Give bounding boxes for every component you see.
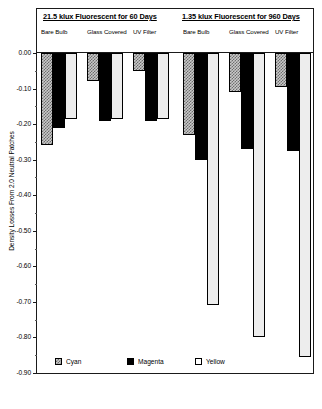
- bar-yellow: [299, 53, 311, 357]
- y-tick-label: -0.90: [1, 369, 31, 376]
- y-tick-label: -0.50: [1, 227, 31, 234]
- y-tick-label: -0.60: [1, 262, 31, 269]
- group-title-1: 1.35 klux Fluorescent for 960 Days: [182, 12, 300, 21]
- y-tick-label: -0.70: [1, 298, 31, 305]
- plot-frame: 21.5 klux Fluorescent for 60 Days 1.35 k…: [36, 8, 314, 374]
- y-tick-label: -0.30: [1, 156, 31, 163]
- y-tick-label: -0.40: [1, 191, 31, 198]
- y-tick-label: -0.80: [1, 333, 31, 340]
- legend-label: Magenta: [138, 358, 164, 365]
- category-label: UV Filter: [275, 28, 298, 35]
- group-title-0: 21.5 klux Fluorescent for 60 Days: [43, 12, 157, 21]
- plot-area: [37, 53, 313, 373]
- chart-legend: CyanMagentaYellow: [55, 357, 255, 371]
- bar-yellow: [111, 53, 123, 119]
- y-tick-label: 0.00: [1, 49, 31, 56]
- bar-magenta: [145, 53, 157, 121]
- bar-yellow: [207, 53, 219, 305]
- y-tick-label: -0.20: [1, 120, 31, 127]
- bar-cyan: [183, 53, 195, 135]
- bar-cyan: [133, 53, 145, 71]
- bar-magenta: [53, 53, 65, 128]
- bar-yellow: [157, 53, 169, 119]
- category-label: Bare Bulb: [41, 28, 67, 35]
- legend-label: Yellow: [206, 358, 225, 365]
- y-tick: [33, 373, 37, 374]
- category-label: Bare Bulb: [183, 28, 209, 35]
- category-label: Glass Covered: [229, 28, 269, 35]
- group-header-band: 21.5 klux Fluorescent for 60 Days 1.35 k…: [37, 9, 313, 53]
- bar-cyan: [229, 53, 241, 92]
- bar-yellow: [253, 53, 265, 337]
- legend-label: Cyan: [66, 358, 81, 365]
- bar-yellow: [65, 53, 77, 119]
- chart-root: 21.5 klux Fluorescent for 60 Days 1.35 k…: [0, 0, 322, 409]
- bar-cyan: [87, 53, 99, 81]
- y-axis-title: Density Losses From 2.0 Neutral Patches: [8, 131, 15, 251]
- category-label: UV Filter: [133, 28, 156, 35]
- bar-cyan: [275, 53, 287, 87]
- category-label: Glass Covered: [87, 28, 127, 35]
- legend-swatch-cyan: [55, 358, 62, 365]
- y-tick-label: -0.10: [1, 85, 31, 92]
- bar-cyan: [41, 53, 53, 145]
- bar-magenta: [99, 53, 111, 121]
- legend-swatch-yellow: [195, 358, 202, 365]
- bar-magenta: [195, 53, 207, 160]
- bar-magenta: [241, 53, 253, 149]
- legend-swatch-magenta: [127, 358, 134, 365]
- bar-magenta: [287, 53, 299, 151]
